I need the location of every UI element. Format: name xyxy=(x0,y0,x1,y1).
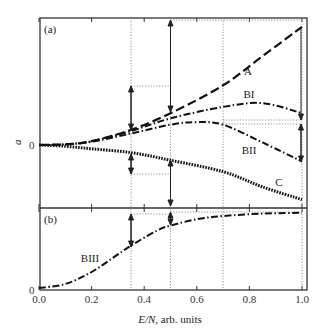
x-tick-label: 1.0 xyxy=(295,293,309,305)
panel-a-label: (a) xyxy=(44,23,57,36)
panel-b-label: (b) xyxy=(44,213,57,226)
curve-label-c: C xyxy=(275,176,282,188)
x-axis-label-italic: E/N, xyxy=(137,313,158,325)
panel-a-zero-label: 0 xyxy=(29,139,35,151)
x-tick-label: 0.6 xyxy=(190,293,204,305)
x-tick-label: 0.8 xyxy=(243,293,257,305)
plot-frame xyxy=(40,18,307,290)
y-axis-label: a xyxy=(11,139,23,145)
curve-label-biii: BIII xyxy=(81,252,100,264)
x-axis-label: E/N, arb. units xyxy=(137,313,202,325)
x-tick-label: 0.4 xyxy=(137,293,151,305)
curve-label-a: A xyxy=(244,65,252,77)
x-tick-label: 0.2 xyxy=(85,293,99,305)
curve-label-bi: BI xyxy=(244,88,255,100)
panel-b-zero-label: 0 xyxy=(29,284,35,296)
curve-label-bii: BII xyxy=(242,144,257,156)
chart: 0.00.20.40.60.81.0ABIBIICBIII (a) (b) 0 … xyxy=(0,0,327,334)
arrows xyxy=(129,20,304,247)
reference-lines xyxy=(131,18,302,290)
x-axis-label-units: arb. units xyxy=(158,313,202,325)
